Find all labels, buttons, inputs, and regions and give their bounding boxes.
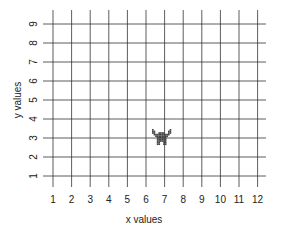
x-tick-label: 8 bbox=[180, 194, 186, 205]
x-tick-label: 1 bbox=[50, 194, 56, 205]
x-tick-label: 4 bbox=[106, 194, 112, 205]
x-tick-label: 12 bbox=[252, 194, 264, 205]
monster-sprite-icon bbox=[152, 129, 171, 145]
data-points bbox=[152, 129, 171, 145]
y-tick-label: 8 bbox=[28, 40, 39, 46]
y-tick-label: 6 bbox=[28, 78, 39, 84]
x-tick-label: 5 bbox=[125, 194, 131, 205]
y-tick-labels: 123456789 bbox=[28, 21, 39, 179]
y-tick-label: 3 bbox=[28, 135, 39, 141]
grid-chart: 123456789101112 123456789 x values y val… bbox=[0, 0, 282, 237]
y-tick-label: 4 bbox=[28, 116, 39, 122]
x-tick-label: 10 bbox=[215, 194, 227, 205]
x-tick-label: 2 bbox=[69, 194, 75, 205]
vertical-grid-lines bbox=[53, 10, 258, 187]
y-tick-label: 7 bbox=[28, 59, 39, 65]
x-tick-label: 7 bbox=[162, 194, 168, 205]
y-tick-label: 9 bbox=[28, 21, 39, 27]
y-tick-label: 2 bbox=[28, 154, 39, 160]
x-tick-labels: 123456789101112 bbox=[50, 194, 263, 205]
y-tick-label: 5 bbox=[28, 97, 39, 103]
y-tick-label: 1 bbox=[28, 173, 39, 179]
x-axis-title: x values bbox=[126, 214, 163, 225]
x-tick-label: 6 bbox=[143, 194, 149, 205]
x-tick-label: 11 bbox=[234, 194, 245, 205]
x-tick-label: 9 bbox=[199, 194, 205, 205]
horizontal-grid-lines bbox=[43, 24, 266, 176]
x-tick-label: 3 bbox=[87, 194, 93, 205]
y-axis-title: y values bbox=[12, 82, 23, 119]
